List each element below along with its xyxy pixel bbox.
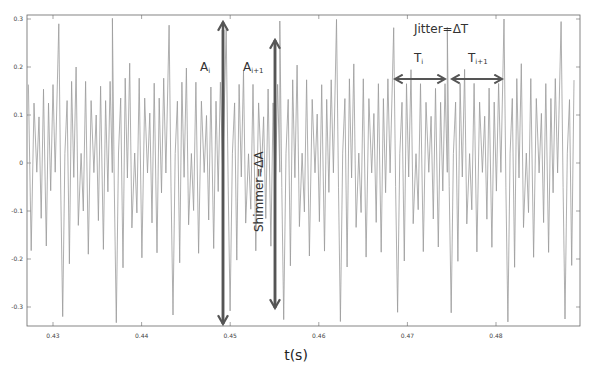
x-tick-label: 0.44 bbox=[135, 332, 149, 339]
x-tick-label: 0.48 bbox=[489, 332, 503, 339]
label-a-i1: Ai+1 bbox=[243, 60, 263, 75]
y-tick-label: -0.1 bbox=[11, 207, 23, 214]
x-tick-label: 0.47 bbox=[401, 332, 415, 339]
y-tick-label: 0.3 bbox=[13, 15, 23, 22]
y-tick-label: 0 bbox=[19, 159, 23, 166]
label-a-i: Ai bbox=[200, 60, 210, 75]
label-shimmer: Shimmer=ΔA bbox=[252, 150, 266, 232]
y-tick-label: 0.2 bbox=[13, 63, 23, 70]
y-tick-label: 0.1 bbox=[13, 111, 23, 118]
x-tick-label: 0.43 bbox=[46, 332, 60, 339]
waveform-line bbox=[28, 18, 574, 322]
x-tick-label: 0.45 bbox=[224, 332, 238, 339]
waveform-chart: 0.30.20.10-0.1-0.2-0.3 0.430.440.450.460… bbox=[0, 0, 593, 376]
label-jitter: Jitter=ΔT bbox=[413, 22, 469, 36]
x-axis-label: t(s) bbox=[284, 347, 308, 363]
label-t-i1: Ti+1 bbox=[467, 51, 488, 66]
y-tick-label: -0.3 bbox=[11, 303, 23, 310]
y-tick-label: -0.2 bbox=[11, 255, 23, 262]
y-axis: 0.30.20.10-0.1-0.2-0.3 bbox=[11, 15, 580, 310]
x-tick-label: 0.46 bbox=[312, 332, 326, 339]
label-t-i: Ti bbox=[413, 51, 423, 66]
